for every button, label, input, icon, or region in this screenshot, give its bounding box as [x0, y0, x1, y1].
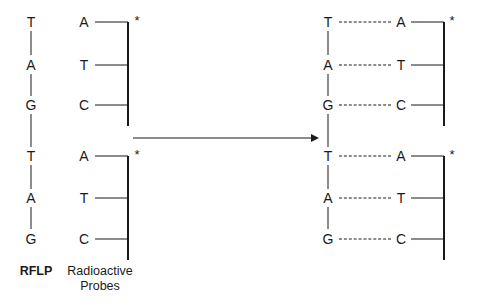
- duplex-template-base: A: [320, 58, 336, 72]
- duplex-probe-base: A: [393, 149, 409, 163]
- probe-backbone: [443, 156, 445, 260]
- duplex-template-backbone: [328, 31, 329, 55]
- rflp-backbone-segment: [31, 74, 32, 96]
- radioactive-probes-caption-line1: Radioactive: [45, 264, 155, 279]
- duplex-template-base: T: [320, 149, 336, 163]
- hydrogen-bond: [339, 65, 391, 66]
- probe-base: A: [76, 15, 92, 29]
- radioactive-probes-caption: Radioactive Probes: [45, 264, 155, 294]
- rflp-base: G: [23, 98, 39, 112]
- radioactive-probes-caption-line2: Probes: [45, 279, 155, 294]
- duplex-template-backbone: [328, 207, 329, 229]
- probe-linker: [411, 156, 444, 157]
- radioactive-label-asterisk: *: [134, 148, 139, 161]
- radioactive-label-asterisk: *: [449, 148, 454, 161]
- duplex-template-base: A: [320, 191, 336, 205]
- duplex-template-base: G: [320, 98, 336, 112]
- hydrogen-bond: [339, 105, 391, 106]
- rflp-base: G: [23, 232, 39, 246]
- rflp-base: A: [23, 191, 39, 205]
- probe-linker: [95, 22, 128, 23]
- rflp-base: T: [23, 15, 39, 29]
- duplex-template-backbone: [328, 74, 329, 96]
- duplex-probe-base: A: [393, 15, 409, 29]
- duplex-probe-base: T: [393, 191, 409, 205]
- figure-canvas: T A G T A G A T C * A T C *: [0, 0, 481, 308]
- rflp-backbone-segment: [31, 31, 32, 55]
- hydrogen-bond: [339, 198, 391, 199]
- probe-backbone: [127, 22, 129, 126]
- probe-base: C: [76, 98, 92, 112]
- rflp-backbone-segment: [31, 207, 32, 229]
- duplex-probe-base: C: [393, 98, 409, 112]
- duplex-template-base: T: [320, 15, 336, 29]
- arrow-head: [311, 134, 319, 142]
- rflp-base: T: [23, 149, 39, 163]
- probe-linker: [411, 65, 444, 66]
- arrow-shaft: [133, 138, 313, 139]
- probe-linker: [95, 198, 128, 199]
- radioactive-label-asterisk: *: [449, 14, 454, 27]
- hydrogen-bond: [339, 156, 391, 157]
- rflp-base: A: [23, 58, 39, 72]
- hydrogen-bond: [339, 22, 391, 23]
- probe-linker: [95, 239, 128, 240]
- probe-base: A: [76, 149, 92, 163]
- probe-base: T: [76, 191, 92, 205]
- probe-backbone: [127, 156, 129, 260]
- duplex-template-backbone: [328, 114, 329, 147]
- duplex-probe-base: T: [393, 58, 409, 72]
- probe-linker: [411, 105, 444, 106]
- probe-linker: [95, 65, 128, 66]
- probe-base: C: [76, 232, 92, 246]
- rflp-backbone-segment: [31, 114, 32, 147]
- duplex-probe-base: C: [393, 232, 409, 246]
- probe-linker: [95, 156, 128, 157]
- probe-linker: [95, 105, 128, 106]
- duplex-template-backbone: [328, 165, 329, 189]
- probe-linker: [411, 22, 444, 23]
- probe-base: T: [76, 58, 92, 72]
- duplex-template-base: G: [320, 232, 336, 246]
- probe-backbone: [443, 22, 445, 126]
- radioactive-label-asterisk: *: [134, 14, 139, 27]
- hydrogen-bond: [339, 239, 391, 240]
- probe-linker: [411, 198, 444, 199]
- rflp-backbone-segment: [31, 165, 32, 189]
- probe-linker: [411, 239, 444, 240]
